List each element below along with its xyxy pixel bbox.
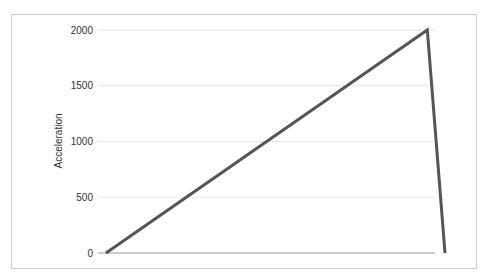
y-axis-label: Acceleration	[53, 113, 64, 168]
line-chart: 0500100015002000Acceleration	[0, 0, 486, 278]
y-tick-label: 1000	[71, 136, 94, 147]
y-tick-label: 0	[87, 248, 93, 259]
y-tick-label: 2000	[71, 25, 94, 36]
y-tick-label: 1500	[71, 80, 94, 91]
y-tick-label: 500	[76, 192, 93, 203]
